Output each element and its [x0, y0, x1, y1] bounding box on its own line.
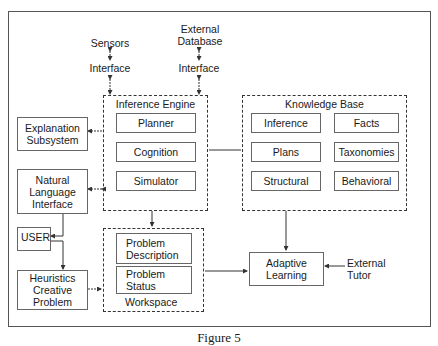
knowledge-base-title: Knowledge Base [242, 98, 407, 110]
figure-caption: Figure 5 [0, 330, 438, 346]
simulator-module: Simulator [116, 171, 196, 191]
sensors-label: Sensors [88, 37, 132, 49]
database-interface-label: Interface [175, 62, 223, 74]
natural-language-interface-label: Natural Language Interface [29, 174, 76, 210]
adaptive-learning-label: Adaptive Learning [266, 257, 307, 281]
adaptive-learning-box: Adaptive Learning [249, 252, 324, 286]
cognition-label: Cognition [134, 146, 178, 158]
kb-inference-label: Inference [264, 117, 308, 129]
sensors-interface-label: Interface [86, 62, 134, 74]
problem-description-box: Problem Description [116, 233, 192, 264]
planner-module: Planner [116, 113, 196, 133]
kb-taxonomies-module: Taxonomies [334, 142, 399, 162]
simulator-label: Simulator [134, 175, 178, 187]
planner-label: Planner [138, 117, 174, 129]
natural-language-interface-box: Natural Language Interface [17, 169, 88, 214]
heuristics-creative-problem-box: Heuristics Creative Problem [17, 270, 88, 310]
user-label: USER [21, 231, 50, 243]
kb-taxonomies-label: Taxonomies [338, 146, 394, 158]
external-tutor-label: External Tutor [347, 257, 386, 281]
kb-facts-label: Facts [354, 117, 380, 129]
user-box: USER [17, 227, 51, 251]
inference-engine-title: Inference Engine [103, 98, 208, 110]
kb-structural-label: Structural [264, 175, 309, 187]
kb-behavioral-module: Behavioral [334, 171, 399, 191]
explanation-subsystem-label: Explanation Subsystem [25, 122, 80, 146]
kb-behavioral-label: Behavioral [342, 175, 392, 187]
external-database-label: External Database [172, 23, 228, 47]
kb-plans-label: Plans [273, 146, 299, 158]
problem-status-box: Problem Status [116, 266, 192, 294]
kb-structural-module: Structural [251, 171, 321, 191]
heuristics-creative-problem-label: Heuristics Creative Problem [29, 272, 75, 308]
explanation-subsystem-box: Explanation Subsystem [17, 117, 88, 151]
kb-inference-module: Inference [251, 113, 321, 133]
cognition-module: Cognition [116, 142, 196, 162]
problem-description-label: Problem Description [126, 237, 179, 261]
kb-plans-module: Plans [251, 142, 321, 162]
kb-facts-module: Facts [334, 113, 399, 133]
problem-status-label: Problem Status [126, 268, 165, 292]
workspace-title: Workspace [125, 296, 177, 308]
